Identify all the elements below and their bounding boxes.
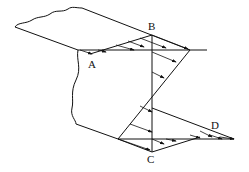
stress-arrows [80,35,234,150]
lower-slant-line [152,108,234,139]
label-d: D [211,120,219,131]
lower-left-edge [76,124,118,139]
stress-line-ab [90,35,152,54]
upper-left-edge [15,27,78,50]
label-b: B [148,21,155,32]
wavy-edge-left [72,50,79,124]
label-c: C [147,154,154,165]
label-a: A [88,59,96,70]
wavy-edge-top [15,7,82,27]
diagram-canvas [0,0,249,172]
diagonal-stress-line [118,50,190,139]
